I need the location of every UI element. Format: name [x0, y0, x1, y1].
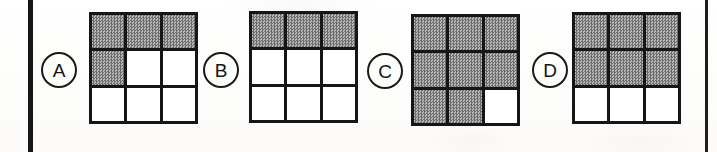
grid-cell-r1-c3 [323, 14, 355, 47]
grid-cell-r2-c2 [610, 51, 642, 84]
grid-cell-r1-c1 [575, 15, 607, 48]
grid-cell-r3-c2 [127, 88, 159, 121]
option-letter-a[interactable]: A [41, 52, 77, 88]
grid-cell-r1-c3 [646, 15, 678, 48]
grid-cell-r3-c3 [323, 87, 355, 120]
option-letter-c[interactable]: C [367, 53, 403, 89]
option-letter-d[interactable]: D [532, 52, 568, 88]
grid-cell-r1-c2 [127, 15, 159, 48]
option-grid-c[interactable] [411, 14, 520, 126]
option-grid-b[interactable] [249, 11, 358, 123]
grid-cell-r2-c2 [449, 53, 481, 86]
right-margin-rule [705, 0, 708, 152]
grid-cell-r2-c3 [163, 51, 195, 84]
grid-cell-r3-c3 [485, 90, 517, 123]
grid-cell-r2-c1 [414, 53, 446, 86]
grid-cell-r3-c1 [575, 88, 607, 121]
grid-cell-r3-c1 [92, 88, 124, 121]
grid-cell-r1-c3 [163, 15, 195, 48]
grid-cell-r3-c1 [252, 87, 284, 120]
grid-cell-r3-c2 [287, 87, 319, 120]
grid-cell-r1-c1 [92, 15, 124, 48]
grid-cell-r2-c3 [646, 51, 678, 84]
grid-cell-r2-c2 [127, 51, 159, 84]
grid-cell-r3-c3 [646, 88, 678, 121]
grid-cell-r2-c1 [252, 50, 284, 83]
option-grid-d[interactable] [572, 12, 681, 124]
grid-cell-r2-c1 [92, 51, 124, 84]
grid-cell-r1-c2 [449, 17, 481, 50]
grid-cell-r3-c1 [414, 90, 446, 123]
option-letter-b[interactable]: B [203, 52, 239, 88]
grid-cell-r2-c3 [323, 50, 355, 83]
grid-cell-r3-c2 [449, 90, 481, 123]
grid-cell-r3-c3 [163, 88, 195, 121]
option-grid-a[interactable] [89, 12, 198, 124]
grid-cell-r1-c2 [610, 15, 642, 48]
grid-cell-r1-c1 [252, 14, 284, 47]
grid-cell-r1-c2 [287, 14, 319, 47]
grid-cell-r1-c3 [485, 17, 517, 50]
grid-cell-r2-c3 [485, 53, 517, 86]
grid-cell-r3-c2 [610, 88, 642, 121]
grid-cell-r2-c1 [575, 51, 607, 84]
grid-cell-r2-c2 [287, 50, 319, 83]
left-margin-rule [28, 0, 33, 152]
grid-cell-r1-c1 [414, 17, 446, 50]
answer-options-figure: ABCD [0, 0, 717, 152]
